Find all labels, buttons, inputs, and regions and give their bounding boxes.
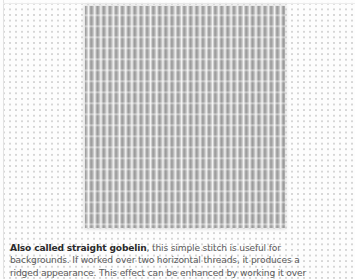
caption-line3: ridged appearance. This effect can be en… [10,268,306,278]
caption-text: Also called straight gobelin, this simpl… [10,242,350,279]
caption-lead: Also called straight gobelin [10,243,147,253]
gobelin-stitch-sample-image [85,6,285,228]
page-edge-line [3,0,4,279]
caption-line2: backgrounds. If worked over two horizont… [10,255,300,265]
page-top-line [3,3,355,4]
caption-line1-rest: , this simple stitch is useful for [147,243,281,253]
